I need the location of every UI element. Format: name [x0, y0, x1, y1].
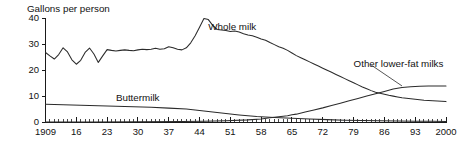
- y-tick-label: 10: [28, 90, 39, 101]
- x-axis-tick-labels: 19091623303744515865727986932000: [35, 126, 457, 137]
- x-tick-label: 44: [194, 126, 205, 137]
- x-tick-label: 2000: [435, 126, 456, 137]
- y-axis-tick-labels: 010203040: [28, 12, 39, 128]
- x-tick-label: 65: [287, 126, 298, 137]
- x-tick-label: 79: [348, 126, 359, 137]
- x-tick-label: 37: [163, 126, 174, 137]
- y-tick-label: 40: [28, 12, 39, 23]
- series-label-whole-milk: Whole milk: [208, 21, 256, 32]
- y-tick-label: 30: [28, 38, 39, 49]
- series-annotations: Whole milkButtermilkOther lower-fat milk…: [116, 21, 444, 103]
- milk-consumption-line-chart: Gallons per person 010203040 19091623303…: [0, 0, 469, 150]
- x-tick-label: 58: [256, 126, 267, 137]
- y-axis-ticks: [42, 18, 46, 123]
- series-label-other-lower-fat-milks: Other lower-fat milks: [354, 58, 444, 69]
- series-label-buttermilk: Buttermilk: [116, 92, 160, 103]
- x-tick-label: 51: [225, 126, 236, 137]
- y-tick-label: 20: [28, 64, 39, 75]
- x-tick-label: 93: [410, 126, 421, 137]
- series-line-buttermilk: [46, 104, 447, 121]
- x-tick-label: 1909: [35, 126, 56, 137]
- chart-title: Gallons per person: [27, 3, 110, 14]
- x-tick-label: 23: [102, 126, 113, 137]
- series-line-other-lower-fat-milks: [46, 86, 447, 122]
- x-tick-label: 72: [317, 126, 328, 137]
- x-tick-label: 86: [379, 126, 390, 137]
- x-tick-label: 30: [133, 126, 144, 137]
- data-series-group: [46, 19, 447, 122]
- chart-container: Gallons per person 010203040 19091623303…: [0, 0, 469, 150]
- x-tick-label: 16: [71, 126, 82, 137]
